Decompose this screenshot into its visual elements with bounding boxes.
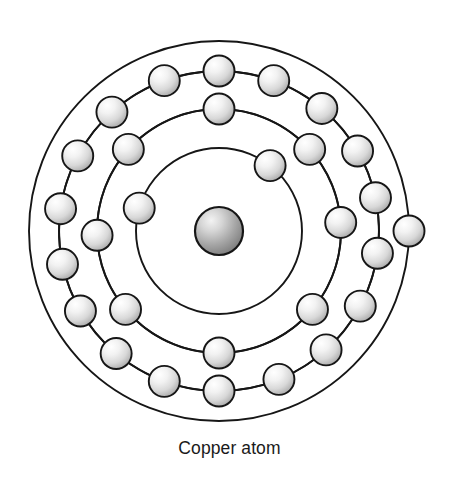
electron-l-1 bbox=[204, 94, 235, 125]
electron-m-9 bbox=[263, 364, 294, 395]
electron-m-10 bbox=[204, 376, 235, 407]
figure-caption: Copper atom bbox=[0, 438, 459, 459]
electron-k-2 bbox=[124, 193, 155, 224]
copper-atom-diagram bbox=[0, 0, 459, 481]
electron-l-2 bbox=[294, 134, 325, 165]
electron-m-6 bbox=[362, 238, 393, 269]
electron-m-15 bbox=[45, 193, 76, 224]
electron-m-4 bbox=[342, 136, 373, 167]
electron-l-3 bbox=[325, 207, 356, 238]
figure-canvas: Copper atom bbox=[0, 0, 459, 481]
electron-l-5 bbox=[204, 338, 235, 369]
electron-l-8 bbox=[113, 134, 144, 165]
electron-m-1 bbox=[204, 56, 235, 87]
electron-m-5 bbox=[360, 182, 391, 213]
electron-m-17 bbox=[96, 97, 127, 128]
electron-k-1 bbox=[255, 150, 286, 181]
electron-m-11 bbox=[149, 366, 180, 397]
electron-m-12 bbox=[101, 338, 132, 369]
electron-n-1 bbox=[394, 216, 425, 247]
electron-m-3 bbox=[306, 93, 337, 124]
electron-m-7 bbox=[345, 291, 376, 322]
electron-l-6 bbox=[110, 294, 141, 325]
electron-m-2 bbox=[258, 65, 289, 96]
nucleus bbox=[195, 207, 243, 255]
electron-m-13 bbox=[65, 296, 96, 327]
electron-l-7 bbox=[82, 220, 113, 251]
electron-m-16 bbox=[62, 140, 93, 171]
electron-m-18 bbox=[149, 65, 180, 96]
electron-m-8 bbox=[311, 334, 342, 365]
electron-l-4 bbox=[297, 294, 328, 325]
electron-m-14 bbox=[47, 249, 78, 280]
